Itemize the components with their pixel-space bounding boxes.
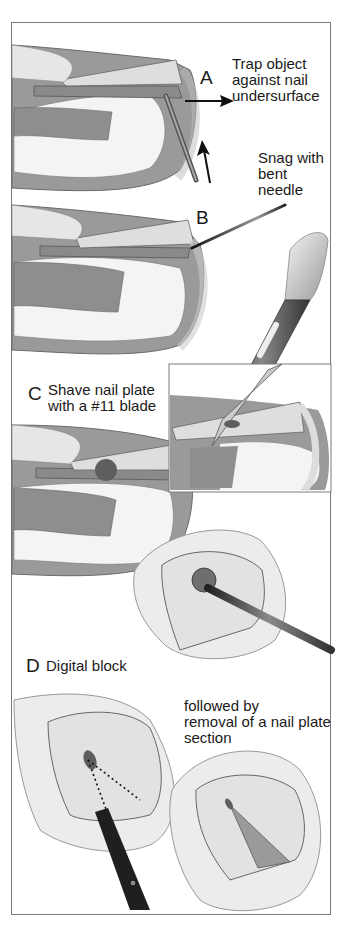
panel-d-letter: D: [26, 656, 40, 676]
panel-d-digital-block: [14, 694, 174, 910]
arrow-up-icon: [197, 140, 210, 156]
caption-line: followed by: [184, 698, 331, 714]
caption-line: Trap object: [232, 56, 320, 72]
caption-line: section: [184, 730, 331, 746]
caption-line: with a #11 blade: [48, 398, 156, 414]
panel-b-letter: B: [196, 208, 209, 228]
caption-line: Snag with: [258, 150, 324, 166]
foreign-body: [95, 459, 117, 481]
panel-d-secondary-caption: followed by removal of a nail plate sect…: [184, 698, 331, 746]
panel-a-letter: A: [200, 68, 213, 88]
caption-line: needle: [258, 182, 324, 198]
panel-a-caption: Trap object against nail undersurface: [232, 56, 320, 104]
caption-line: Shave nail plate: [48, 382, 156, 398]
panel-c-letter: C: [28, 384, 42, 404]
caption-line: removal of a nail plate: [184, 714, 331, 730]
caption-line: bent: [258, 166, 324, 182]
panel-a-secondary-caption: Snag with bent needle: [258, 150, 324, 198]
panel-b-finger-section: [12, 205, 285, 354]
panel-d-nail-removed: [170, 751, 321, 911]
illustration-canvas: [0, 0, 348, 935]
caption-line: undersurface: [232, 88, 320, 104]
toe-top-view-forceps: [134, 530, 331, 659]
panel-c-caption: Shave nail plate with a #11 blade: [48, 382, 156, 414]
panel-c-inset: [169, 364, 331, 492]
panel-d-caption: Digital block: [46, 658, 127, 674]
caption-line: against nail: [232, 72, 320, 88]
